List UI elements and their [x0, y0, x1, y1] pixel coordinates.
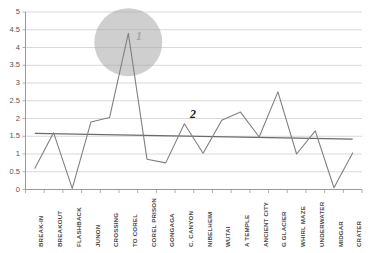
x-tick-marks-group — [26, 190, 363, 194]
x-tick-label: A TEMPLE — [243, 215, 250, 247]
x-tick-label: BREAK-IN — [37, 216, 44, 247]
y-tick-label: 0 — [0, 186, 20, 194]
x-tick-label: WHIRL MAZE — [299, 206, 306, 247]
x-tick-label: NIBELHEIM — [206, 212, 213, 247]
y-tick-label: 4.5 — [0, 26, 20, 34]
x-tick-label: FLASHBACK — [75, 207, 82, 247]
x-tick-label: CROSSING — [112, 213, 119, 247]
x-tick-label: C. CANYON — [187, 211, 194, 247]
x-tick-label: UNDERWATER — [318, 202, 325, 247]
y-tick-label: 3 — [0, 79, 20, 87]
x-tick-label: COREL PRISON — [150, 198, 157, 247]
gridlines-group — [26, 12, 363, 190]
highlight-circle — [94, 8, 162, 76]
x-tick-label: BREAKOUT — [56, 211, 63, 247]
y-tick-label: 1.5 — [0, 132, 20, 140]
x-tick-label: TO COREL — [131, 214, 138, 247]
x-tick-label: WUTAI — [224, 226, 231, 247]
y-tick-label: 5 — [0, 8, 20, 16]
annotation-highlight-group — [94, 8, 162, 76]
y-tick-label: 2.5 — [0, 97, 20, 105]
y-tick-label: 1 — [0, 150, 20, 158]
x-tick-label: MIDGAR — [337, 221, 344, 247]
x-tick-label: G GLACIER — [280, 211, 287, 247]
x-tick-label: GONGAGA — [168, 213, 175, 247]
chart-container: 00.511.522.533.544.55 BREAK-INBREAKOUTFL… — [0, 0, 372, 253]
x-tick-label: JUNON — [94, 225, 101, 247]
x-tick-label: CRATER — [355, 221, 362, 247]
y-tick-label: 4 — [0, 44, 20, 52]
y-tick-label: 0.5 — [0, 168, 20, 176]
y-tick-label: 2 — [0, 115, 20, 123]
annotation-label-2: 2 — [190, 107, 196, 122]
x-tick-label: ANCIENT CITY — [262, 202, 269, 247]
y-tick-label: 3.5 — [0, 61, 20, 69]
annotation-label-1: 1 — [136, 29, 142, 44]
